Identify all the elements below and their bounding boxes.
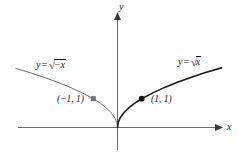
equation-label-sqrt-neg-x: y=√−x (36, 59, 66, 71)
y-axis-arrowhead (114, 12, 121, 20)
equation-left-radical-group: √−x (48, 59, 66, 71)
point-marker-one-one (139, 96, 145, 102)
x-axis (18, 124, 223, 131)
y-axis-label: y (119, 2, 123, 12)
plot-area (0, 0, 239, 161)
x-axis-label: x (227, 122, 231, 132)
equation-right-radical-group: √x (190, 56, 201, 68)
y-axis (114, 12, 121, 150)
equation-label-sqrt-x: y=√x (178, 56, 201, 68)
equation-right-radicand: x (196, 56, 201, 67)
point-label-one-one: (1, 1) (151, 95, 172, 105)
equation-right-equals: = (182, 56, 190, 67)
equation-left-radicand: −x (54, 59, 66, 70)
x-axis-arrowhead (215, 124, 223, 131)
equation-left-equals: = (40, 59, 48, 70)
point-marker-neg-one-one (91, 96, 96, 101)
square-root-graph-figure: y x y=√−x y=√x (−1, 1) (1, 1) (0, 0, 239, 161)
point-label-neg-one-one: (−1, 1) (57, 95, 84, 105)
